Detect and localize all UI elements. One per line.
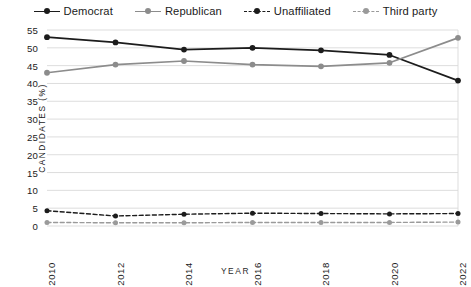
data-point	[45, 208, 50, 213]
data-point	[182, 220, 187, 225]
y-tick-label: 5	[0, 203, 38, 214]
y-tick-label: 35	[0, 96, 38, 107]
data-point	[181, 58, 187, 64]
data-point	[318, 63, 324, 69]
series-line-republican	[47, 38, 458, 73]
y-tick-label: 40	[0, 78, 38, 89]
data-point	[387, 211, 392, 216]
legend-swatch-icon	[34, 6, 60, 17]
data-point	[387, 60, 393, 66]
data-point	[113, 220, 118, 225]
line-chart: DemocratRepublicanUnaffiliatedThird part…	[0, 0, 471, 287]
data-point	[456, 220, 461, 225]
legend-label: Democrat	[64, 5, 113, 17]
data-point	[250, 211, 255, 216]
data-point	[319, 220, 324, 225]
data-point	[45, 220, 50, 225]
data-point	[44, 34, 50, 40]
y-tick-label: 45	[0, 60, 38, 71]
data-point	[250, 62, 256, 68]
data-point	[113, 214, 118, 219]
plot-svg	[47, 30, 458, 226]
legend-swatch-icon	[135, 6, 161, 17]
data-point	[250, 220, 255, 225]
plot-area	[47, 30, 458, 226]
legend-swatch-icon	[244, 6, 270, 17]
y-tick-label: 10	[0, 185, 38, 196]
y-tick-label: 25	[0, 131, 38, 142]
data-point	[181, 47, 187, 53]
y-tick-label: 50	[0, 42, 38, 53]
data-point	[182, 212, 187, 217]
legend-item-unaffiliated[interactable]: Unaffiliated	[244, 5, 331, 17]
y-tick-label: 0	[0, 221, 38, 232]
y-tick-label: 30	[0, 114, 38, 125]
data-point	[319, 211, 324, 216]
y-tick-label: 15	[0, 167, 38, 178]
data-point	[455, 78, 461, 84]
data-point	[455, 35, 461, 41]
data-point	[456, 211, 461, 216]
x-axis-title: YEAR	[0, 266, 471, 276]
data-point	[318, 47, 324, 53]
legend-label: Third party	[383, 5, 438, 17]
legend-label: Unaffiliated	[274, 5, 331, 17]
chart-legend: DemocratRepublicanUnaffiliatedThird part…	[0, 0, 471, 22]
y-axis-title: CANDIDATES (%)	[37, 83, 47, 173]
data-point	[387, 220, 392, 225]
data-point	[113, 62, 119, 68]
series-line-democrat	[47, 37, 458, 80]
legend-item-democrat[interactable]: Democrat	[34, 5, 113, 17]
data-point	[44, 70, 50, 76]
data-point	[387, 52, 393, 58]
legend-item-third-party[interactable]: Third party	[353, 5, 438, 17]
data-point	[113, 40, 119, 46]
data-point	[250, 45, 256, 51]
legend-item-republican[interactable]: Republican	[135, 5, 222, 17]
legend-label: Republican	[165, 5, 222, 17]
y-tick-label: 20	[0, 149, 38, 160]
y-tick-label: 55	[0, 25, 38, 36]
legend-swatch-icon	[353, 6, 379, 17]
